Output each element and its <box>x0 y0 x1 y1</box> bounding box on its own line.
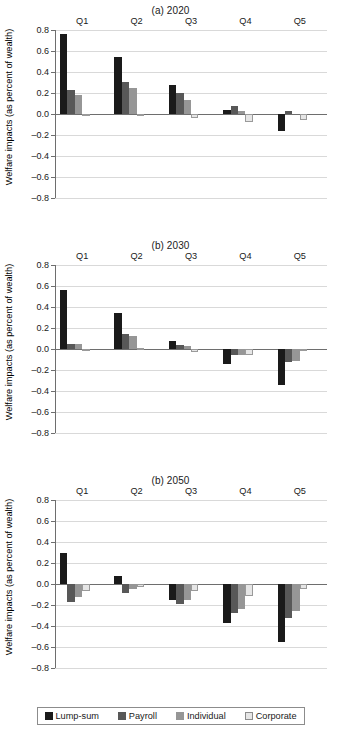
bars <box>55 30 109 198</box>
y-tick-label: 0.8 <box>36 26 49 35</box>
legend-label: Individual <box>187 711 226 721</box>
gridline <box>55 668 327 669</box>
bar-slot <box>169 265 176 433</box>
bar-slot <box>191 500 198 668</box>
bar-corporate-q5 <box>300 349 307 351</box>
bar-payroll-q4 <box>231 106 238 114</box>
bar-group-q2 <box>109 265 163 433</box>
bar-group-q3 <box>164 265 218 433</box>
y-tick-label: –0.6 <box>31 173 49 182</box>
category-labels: Q1Q2Q3Q4Q5 <box>55 251 327 265</box>
bar-slot <box>245 500 252 668</box>
bar-slot <box>60 30 67 198</box>
gridline <box>55 433 327 434</box>
bar-payroll-q3 <box>176 584 183 604</box>
bar-lump-sum-q3 <box>169 584 176 600</box>
bar-slot <box>245 265 252 433</box>
y-tick-label: 0.0 <box>36 345 49 354</box>
bar-group-q2 <box>109 500 163 668</box>
bar-slot <box>169 500 176 668</box>
bar-slot <box>129 30 136 198</box>
bar-individual-q5 <box>292 349 299 361</box>
bar-group-q1 <box>55 265 109 433</box>
bar-slot <box>292 30 299 198</box>
bar-slot <box>122 30 129 198</box>
y-tick-label: 0.8 <box>36 496 49 505</box>
y-tick-label: 0.0 <box>36 580 49 589</box>
bar-payroll-q4 <box>231 584 238 613</box>
bar-slot <box>285 265 292 433</box>
legend-swatch-icon <box>245 712 253 720</box>
bar-group-q1 <box>55 30 109 198</box>
bar-group-q3 <box>164 30 218 198</box>
category-label-q1: Q1 <box>55 16 109 30</box>
y-axis-label: Welfare impacts (as percent of wealth) <box>2 486 16 668</box>
bar-lump-sum-q4 <box>223 584 230 623</box>
y-axis-label: Welfare impacts (as percent of wealth) <box>2 16 16 198</box>
bar-corporate-q4 <box>245 584 252 596</box>
legend-swatch-icon <box>118 712 126 720</box>
y-tick-label: 0.6 <box>36 517 49 526</box>
category-label-q5: Q5 <box>273 16 327 30</box>
bar-individual-q5 <box>292 584 299 611</box>
legend-item-individual: Individual <box>176 711 226 721</box>
bar-slot <box>245 30 252 198</box>
bar-payroll-q1 <box>67 344 74 349</box>
bar-slot <box>238 30 245 198</box>
bar-slot <box>82 265 89 433</box>
bar-slot <box>300 500 307 668</box>
bar-lump-sum-q4 <box>223 349 230 364</box>
bars <box>273 30 327 198</box>
bar-slot <box>176 500 183 668</box>
bar-corporate-q1 <box>82 349 89 351</box>
bar-individual-q1 <box>75 95 82 114</box>
bar-slot <box>137 30 144 198</box>
bar-slot <box>223 30 230 198</box>
y-tick-label: 0.8 <box>36 261 49 270</box>
bar-groups <box>55 265 327 433</box>
bar-slot <box>75 265 82 433</box>
bar-payroll-q2 <box>122 82 129 114</box>
y-tick-label: –0.4 <box>31 387 49 396</box>
bar-slot <box>285 500 292 668</box>
bar-slot <box>231 265 238 433</box>
category-labels: Q1Q2Q3Q4Q5 <box>55 486 327 500</box>
bar-payroll-q3 <box>176 345 183 349</box>
bar-lump-sum-q3 <box>169 341 176 349</box>
y-tick-label: 0.4 <box>36 538 49 547</box>
bar-slot <box>300 265 307 433</box>
bar-payroll-q5 <box>285 111 292 114</box>
bar-slot <box>75 500 82 668</box>
bar-lump-sum-q2 <box>114 313 121 349</box>
bar-corporate-q5 <box>300 114 307 120</box>
bar-slot <box>122 500 129 668</box>
category-labels: Q1Q2Q3Q4Q5 <box>55 16 327 30</box>
bar-corporate-q3 <box>191 584 198 591</box>
bar-lump-sum-q1 <box>60 290 67 349</box>
bar-slot <box>191 30 198 198</box>
bar-group-q4 <box>218 30 272 198</box>
bar-payroll-q1 <box>67 90 74 114</box>
plot-canvas <box>55 500 327 668</box>
bar-slot <box>169 30 176 198</box>
bar-group-q5 <box>273 500 327 668</box>
bar-payroll-q2 <box>122 584 129 593</box>
bar-payroll-q1 <box>67 584 74 602</box>
category-label-q2: Q2 <box>109 486 163 500</box>
bars <box>109 30 163 198</box>
bars <box>164 30 218 198</box>
bar-slot <box>60 500 67 668</box>
bar-individual-q4 <box>238 584 245 609</box>
y-axis-ticks: 0.80.60.40.20.0–0.2–0.4–0.6–0.8 <box>16 30 52 198</box>
bars <box>164 500 218 668</box>
chart-legend: Lump-sumPayrollIndividualCorporate <box>37 707 305 725</box>
category-label-q5: Q5 <box>273 251 327 265</box>
category-label-q1: Q1 <box>55 251 109 265</box>
bar-slot <box>129 265 136 433</box>
bar-groups <box>55 30 327 198</box>
bar-slot <box>278 265 285 433</box>
bar-corporate-q3 <box>191 349 198 352</box>
y-tick-label: –0.2 <box>31 131 49 140</box>
bar-group-q3 <box>164 500 218 668</box>
bar-slot <box>231 500 238 668</box>
